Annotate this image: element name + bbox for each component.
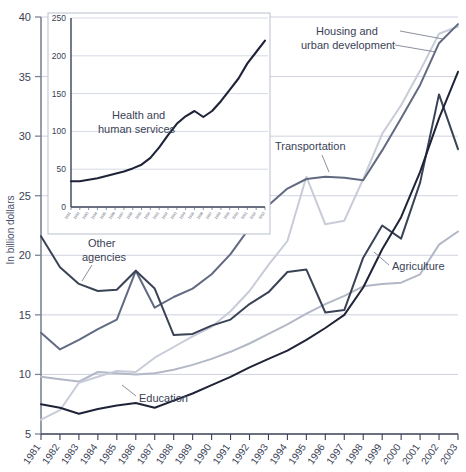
x-tick-label-1990: 1990 — [191, 441, 213, 466]
x-tick-label-1995: 1995 — [286, 441, 308, 466]
x-tick-label-1983: 1983 — [59, 441, 81, 466]
y-tick-label-40: 40 — [19, 11, 31, 23]
inset-y-tick-label-250: 250 — [52, 13, 66, 23]
inset-y-tick-label-200: 200 — [52, 51, 66, 61]
x-tick-label-2002: 2002 — [419, 441, 441, 466]
inset-y-tick-label-50: 50 — [57, 164, 67, 174]
annotation-education: Education — [122, 385, 188, 404]
x-tick-label-1988: 1988 — [154, 441, 176, 466]
y-tick-label-30: 30 — [19, 130, 31, 142]
x-tick-label-1997: 1997 — [324, 441, 346, 466]
inset-panel: 250200150100500 198119821983198419851986… — [48, 13, 270, 234]
multi-series-line-chart: 403530252015105 198119821983198419851986… — [0, 0, 466, 472]
y-tick-label-25: 25 — [19, 190, 31, 202]
series-label-hud-line1: Housing and — [316, 25, 378, 37]
annotation-other-agencies: Other agencies — [82, 237, 127, 281]
y-tick-label-10: 10 — [19, 368, 31, 380]
y-axis-title: In billion dollars — [5, 196, 16, 265]
x-tick-label-1981: 1981 — [21, 441, 43, 466]
x-tick-label-2001: 2001 — [400, 441, 422, 466]
inset-y-tick-label-150: 150 — [52, 89, 66, 99]
main-x-tick-labels: 1981198219831984198519861987198819891990… — [21, 441, 460, 466]
x-tick-label-1996: 1996 — [305, 441, 327, 466]
y-tick-label-5: 5 — [25, 428, 31, 440]
main-y-tick-labels: 403530252015105 — [19, 11, 41, 440]
series-label-other-agencies-line1: Other — [88, 237, 116, 249]
series-label-hud-line2: urban development — [301, 39, 395, 51]
x-tick-label-1991: 1991 — [210, 441, 232, 466]
leader-line-hud-upper — [400, 31, 443, 39]
series-label-other-agencies-line2: agencies — [82, 251, 127, 263]
inset-x-tick-labels: 1981198219831984198519861987198819891990… — [64, 211, 266, 220]
y-tick-label-35: 35 — [19, 71, 31, 83]
series-label-transportation: Transportation — [275, 140, 346, 152]
annotation-transportation: Transportation — [275, 140, 346, 172]
x-tick-label-1987: 1987 — [135, 441, 157, 466]
y-tick-label-15: 15 — [19, 309, 31, 321]
inset-series-label-line1: Health and — [112, 109, 165, 121]
y-tick-label-20: 20 — [19, 249, 31, 261]
series-label-agriculture: Agriculture — [392, 260, 445, 272]
x-tick-label-1993: 1993 — [248, 441, 270, 466]
inset-y-tick-label-100: 100 — [52, 126, 66, 136]
x-tick-label-1982: 1982 — [40, 441, 62, 466]
inset-y-tick-label-0: 0 — [61, 202, 66, 212]
chart-figure: 403530252015105 198119821983198419851986… — [0, 0, 466, 472]
leader-line-education — [122, 385, 136, 396]
x-tick-label-1994: 1994 — [267, 441, 289, 466]
x-tick-label-1984: 1984 — [78, 441, 100, 466]
x-tick-label-1989: 1989 — [173, 441, 195, 466]
x-tick-label-1992: 1992 — [229, 441, 251, 466]
x-tick-label-2000: 2000 — [381, 441, 403, 466]
x-tick-label-1999: 1999 — [362, 441, 384, 466]
main-x-tick-marks — [41, 434, 458, 440]
series-label-education: Education — [139, 392, 188, 404]
x-tick-label-1998: 1998 — [343, 441, 365, 466]
leader-line-hud-lower — [395, 45, 436, 52]
x-tick-label-1985: 1985 — [97, 441, 119, 466]
x-tick-label-2003: 2003 — [438, 441, 460, 466]
leader-line-other-agencies — [82, 265, 92, 281]
leader-line-transportation — [322, 155, 329, 172]
x-tick-label-1986: 1986 — [116, 441, 138, 466]
inset-series-label-line2: human services — [98, 123, 176, 135]
annotation-housing-and-urban-development: Housing and urban development — [301, 25, 443, 52]
